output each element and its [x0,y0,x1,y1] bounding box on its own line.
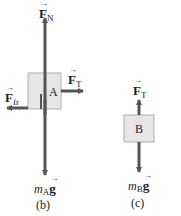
tension-force-b-label: →FT [133,82,146,98]
diagram-graphics [0,0,181,216]
box-a-label: A [49,85,58,100]
caption-c: (c) [131,197,144,209]
normal-force-label: →FN [39,5,53,21]
weight-b-label: mB→g [128,177,149,193]
box-b-label: B [135,122,143,137]
free-body-diagrams: A B →FN →FT →Ffr mA→g (b) →FT mB→g (c) [0,0,181,216]
caption-b: (b) [36,199,50,211]
tension-force-a-label: →FT [68,71,81,87]
friction-force-label: →Ffr [5,89,19,105]
weight-a-label: mA→g [34,180,56,196]
